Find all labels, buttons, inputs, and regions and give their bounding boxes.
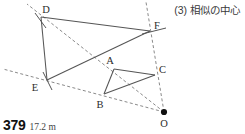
segment-D-E	[41, 17, 47, 80]
triangle-DEF	[41, 17, 150, 80]
answer-row: 379 17.2 m	[3, 117, 56, 133]
tick-through-E	[43, 72, 52, 90]
vertex-label-A: A	[106, 55, 114, 66]
segment-B-C	[104, 75, 155, 94]
problem-number: 379	[3, 117, 25, 133]
segment-A-C	[114, 69, 155, 75]
vertex-label-B: B	[96, 99, 103, 110]
answer-value: 17.2 m	[29, 122, 55, 132]
segment-E-F	[47, 31, 150, 80]
segment-A-B	[104, 69, 114, 94]
similar-triangles-figure: D F E A B C O	[0, 0, 245, 134]
ray-O-A-D	[27, 4, 164, 112]
segment-D-F	[41, 17, 150, 31]
dashed-rays-group	[3, 2, 164, 112]
vertex-label-C: C	[159, 64, 166, 75]
vertex-label-F: F	[154, 20, 160, 31]
vertex-label-O: O	[160, 118, 168, 129]
vertex-label-E: E	[32, 82, 38, 93]
vertex-label-D: D	[42, 4, 50, 15]
triangle-ABC	[104, 69, 155, 94]
figure-page: (3) 相似の中心 D F E A B C O	[0, 0, 245, 134]
ray-O-C-F	[146, 2, 164, 112]
center-of-similarity-dot	[161, 109, 167, 115]
ray-O-B-E	[3, 69, 164, 112]
